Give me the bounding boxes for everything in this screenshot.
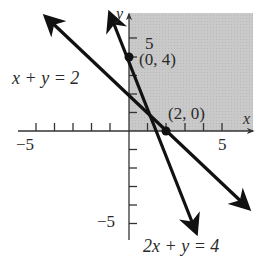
point-2-0 [162,127,171,136]
equation-label-x-plus-y: x + y = 2 [12,69,79,87]
point-label-0-4: (0, 4) [139,51,176,68]
x-tick-label-5: 5 [218,136,227,153]
point-0-4 [125,53,134,62]
equation-label-2x-plus-y: 2x + y = 4 [143,237,219,255]
x-tick-label-neg5: −5 [16,136,34,153]
y-tick-label-neg5: −5 [97,213,115,230]
x-axis-label: x [243,111,250,127]
point-label-2-0: (2, 0) [168,105,205,122]
chart-canvas [0,0,262,267]
y-axis-label: y [116,6,123,22]
